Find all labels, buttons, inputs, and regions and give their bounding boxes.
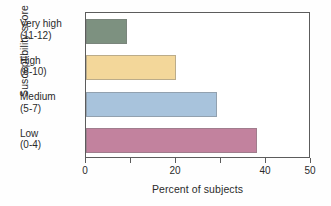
y-tick-label-range: (8-10) xyxy=(20,66,83,77)
y-tick-label-range: (0-4) xyxy=(20,139,83,150)
y-tick-label-name: Very high xyxy=(20,18,83,29)
y-tick-label-high: High(8-10) xyxy=(20,55,83,78)
y-tick-label-name: Medium xyxy=(20,91,83,102)
x-tick-20 xyxy=(175,158,176,163)
x-tick-label-40: 40 xyxy=(245,165,285,176)
x-axis-title: Percent of subjects xyxy=(85,183,310,195)
x-tick-0 xyxy=(85,158,86,163)
bar-low xyxy=(86,128,257,153)
plot-area xyxy=(85,12,310,158)
bar-chart-figure: Susceptibility score Low(0-4)Medium(5-7)… xyxy=(0,0,331,206)
y-tick-label-low: Low(0-4) xyxy=(20,128,83,151)
x-tick-label-0: 0 xyxy=(65,165,105,176)
x-tick-40 xyxy=(265,158,266,163)
x-tick-50 xyxy=(310,158,311,163)
x-tick-10 xyxy=(130,158,131,163)
bar-very-high xyxy=(86,19,127,44)
y-axis-tick-labels: Low(0-4)Medium(5-7)High(8-10)Very high(1… xyxy=(20,12,83,158)
y-tick-label-very-high: Very high(11-12) xyxy=(20,18,83,41)
y-tick-label-name: High xyxy=(20,55,83,66)
x-tick-label-20: 20 xyxy=(155,165,195,176)
x-tick-30 xyxy=(220,158,221,163)
bar-medium xyxy=(86,92,217,117)
bar-high xyxy=(86,55,176,80)
x-tick-label-50: 50 xyxy=(290,165,330,176)
y-tick-label-medium: Medium(5-7) xyxy=(20,91,83,114)
y-tick-label-range: (11-12) xyxy=(20,30,83,41)
y-tick-label-name: Low xyxy=(20,128,83,139)
y-tick-label-range: (5-7) xyxy=(20,103,83,114)
